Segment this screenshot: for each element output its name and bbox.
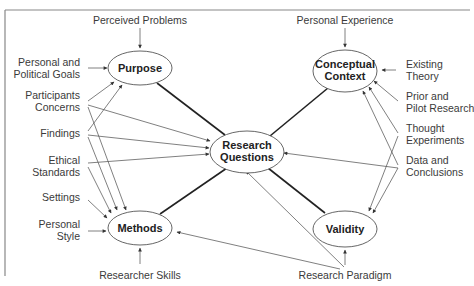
researcher-skills-label: Researcher Skills	[99, 269, 181, 281]
settings-label: Settings	[42, 191, 80, 203]
research-questions-label-line1: Research	[222, 139, 272, 151]
conceptual-context-label-line2: Context	[325, 70, 366, 82]
perceived-problems-label: Perceived Problems	[93, 14, 187, 26]
prior-pilot-research-line1: Prior and	[406, 90, 449, 102]
node-research-questions: Research Questions	[210, 131, 284, 173]
findings-label: Findings	[40, 127, 80, 139]
ethical-standards-line2: Standards	[32, 166, 80, 178]
ethical-standards-line1: Ethical	[48, 154, 80, 166]
node-methods: Methods	[108, 211, 172, 245]
personal-style-line2: Style	[57, 230, 81, 242]
node-conceptual-context: Conceptual Context	[313, 50, 377, 92]
validity-label: Validity	[326, 223, 365, 235]
research-paradigm-label: Research Paradigm	[299, 269, 392, 281]
research-questions-label-line2: Questions	[220, 151, 274, 163]
existing-theory-line1: Existing	[406, 58, 443, 70]
conceptual-context-label-line1: Conceptual	[315, 58, 375, 70]
participants-concerns-line2: Concerns	[35, 101, 80, 113]
thought-experiments-line2: Experiments	[406, 134, 464, 146]
personal-style-line1: Personal	[39, 218, 80, 230]
existing-theory-line2: Theory	[406, 70, 439, 82]
node-purpose: Purpose	[108, 51, 172, 85]
thought-experiments-line1: Thought	[406, 122, 445, 134]
personal-experience-label: Personal Experience	[297, 14, 394, 26]
personal-political-goals-line1: Personal and	[18, 56, 80, 68]
participants-concerns-line1: Participants	[25, 89, 80, 101]
prior-pilot-research-line2: Pilot Research	[406, 102, 474, 114]
purpose-label: Purpose	[118, 62, 162, 74]
data-conclusions-line2: Conclusions	[406, 166, 463, 178]
methods-label: Methods	[117, 222, 162, 234]
data-conclusions-line1: Data and	[406, 154, 449, 166]
research-design-diagram: Purpose Conceptual Context Research Ques…	[0, 0, 474, 286]
personal-political-goals-line2: Political Goals	[13, 68, 80, 80]
node-validity: Validity	[313, 211, 377, 247]
